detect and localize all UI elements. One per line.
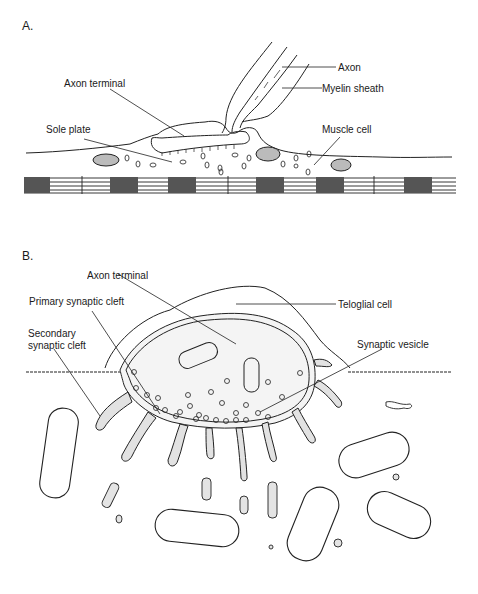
secondary-synaptic-cleft-label-line2: synaptic cleft: [28, 341, 86, 351]
myelin-sheath-label: Myelin sheath: [322, 84, 384, 94]
secondary-synaptic-cleft-label-line1: Secondary: [28, 329, 76, 339]
panel-b-drawing: [26, 274, 452, 566]
axon-label: Axon: [338, 63, 361, 73]
teloglial-cell-label: Teloglial cell: [338, 300, 392, 310]
sole-plate-label: Sole plate: [46, 125, 90, 135]
panel-b-label: B.: [22, 250, 33, 262]
muscle-cell-label: Muscle cell: [322, 125, 371, 135]
axon-terminal-label-b: Axon terminal: [87, 271, 148, 279]
panel-a-label: A.: [22, 20, 33, 32]
panel-a-drawing: [24, 42, 456, 194]
primary-synaptic-cleft-label: Primary synaptic cleft: [29, 297, 124, 307]
synaptic-vesicle-label: Synaptic vesicle: [357, 340, 429, 350]
axon-terminal-label-a: Axon terminal: [64, 79, 125, 89]
